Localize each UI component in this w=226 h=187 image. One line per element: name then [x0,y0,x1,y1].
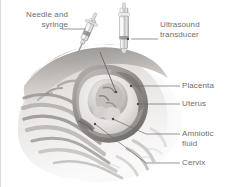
label-needle-and-syringe: Needle and syringe [6,10,68,29]
amniocentesis-figure: Needle and syringe Ultrasound transducer… [0,0,226,187]
label-uterus: Uterus [182,99,226,109]
transducer [119,3,130,53]
label-amniotic-fluid: Amniotic fluid [182,129,226,148]
label-placenta: Placenta [182,81,226,91]
needle-tip [115,91,118,94]
label-ultrasound-transducer: Ultrasound transducer [160,20,224,39]
label-cervix: Cervix [182,158,226,168]
